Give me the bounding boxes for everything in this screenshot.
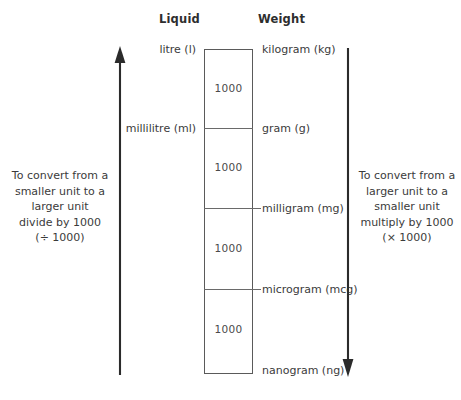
column-header-weight: Weight <box>258 12 368 26</box>
note-right-line-1: To convert from a <box>356 168 458 184</box>
note-right-line-3: smaller unit <box>356 199 458 215</box>
ladder-divider-3 <box>204 289 253 290</box>
note-right-line-4: multiply by 1000 <box>356 215 458 231</box>
note-larger-to-smaller: To convert from a larger unit to a small… <box>356 168 458 246</box>
note-smaller-to-larger: To convert from a smaller unit to a larg… <box>6 168 114 246</box>
segment-factor-label: 1000 <box>204 242 253 254</box>
column-header-liquid: Liquid <box>0 12 200 26</box>
unit-label-millilitre: millilitre (ml) <box>36 122 196 135</box>
unit-label-nanogram: nanogram (ng) <box>262 364 382 377</box>
note-left-line-3: larger unit <box>6 199 114 215</box>
note-right-line-2: larger unit to a <box>356 184 458 200</box>
note-left-line-5: (÷ 1000) <box>6 230 114 246</box>
note-right-line-5: (× 1000) <box>356 230 458 246</box>
segment-factor-label: 1000 <box>204 161 253 173</box>
unit-label-kilogram: kilogram (kg) <box>262 43 382 56</box>
note-left-line-4: divide by 1000 <box>6 215 114 231</box>
ladder-divider-2 <box>204 208 253 209</box>
connector-line-milligram <box>253 208 261 209</box>
unit-label-gram: gram (g) <box>262 122 382 135</box>
connector-line-microgram <box>253 289 261 290</box>
ladder-divider-1 <box>204 128 253 129</box>
segment-factor-label: 1000 <box>204 323 253 335</box>
unit-label-microgram: microgram (mcg) <box>262 283 382 296</box>
unit-label-litre: litre (l) <box>36 43 196 56</box>
segment-factor-label: 1000 <box>204 82 253 94</box>
note-left-line-1: To convert from a <box>6 168 114 184</box>
arrow-up-icon <box>115 46 126 375</box>
note-left-line-2: smaller unit to a <box>6 184 114 200</box>
unit-conversion-ladder-diagram: Liquid Weight 1000 1000 1000 1000 litre … <box>0 0 461 400</box>
